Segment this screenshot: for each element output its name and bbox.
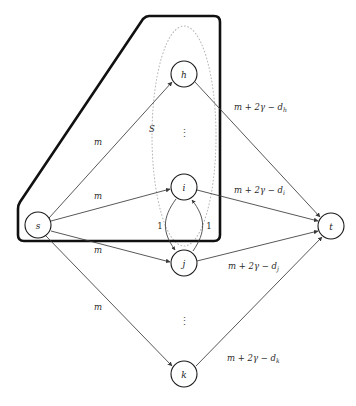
- node-t-label: t: [329, 222, 333, 232]
- network-flow-figure: s h i j k t m m m m m + 2γ − dh: [0, 0, 356, 406]
- edge-i-to-j: [165, 199, 176, 250]
- edge-label-k-to-t-text: m + 2γ − d: [227, 353, 277, 363]
- node-k[interactable]: k: [171, 361, 197, 387]
- edge-s-to-j: [51, 231, 170, 262]
- edge-label-h-to-t-subscript: h: [283, 106, 287, 113]
- node-i-label: i: [183, 183, 186, 193]
- node-h[interactable]: h: [171, 61, 197, 87]
- edge-label-h-to-t-text: m + 2γ − d: [234, 102, 284, 112]
- set-label-s: S: [149, 124, 155, 134]
- edge-s-to-h: [49, 82, 172, 218]
- edge-j-to-t: [197, 231, 318, 261]
- edge-label-s-to-h: m: [94, 137, 102, 147]
- edge-label-j-to-t-text: m + 2γ − d: [228, 261, 278, 271]
- node-j[interactable]: j: [171, 250, 197, 276]
- edge-label-s-to-k: m: [94, 302, 102, 312]
- edge-label-i-to-t-text: m + 2γ − d: [234, 185, 284, 195]
- node-h-label: h: [181, 70, 187, 80]
- ellipsis-upper: ⋮: [179, 127, 190, 140]
- edge-label-h-to-t: m + 2γ − dh: [215, 102, 300, 114]
- ellipsis-lower: ⋮: [179, 315, 190, 328]
- edge-label-i-to-j: 1: [157, 221, 162, 231]
- node-s-label: s: [36, 221, 41, 231]
- edge-j-to-i: [192, 200, 203, 251]
- node-s[interactable]: s: [25, 212, 51, 238]
- edge-label-i-to-t-subscript: i: [283, 189, 285, 196]
- edge-label-i-to-t: m + 2γ − di: [215, 185, 298, 197]
- edge-label-k-to-t-subscript: k: [276, 357, 280, 364]
- edge-label-j-to-t: m + 2γ − dj: [209, 261, 292, 273]
- cut-boundary-polygon: [18, 16, 220, 241]
- edge-label-s-to-j: m: [94, 245, 102, 255]
- edge-label-s-to-i: m: [94, 191, 102, 201]
- node-k-label: k: [181, 370, 186, 380]
- edge-s-to-k: [46, 236, 172, 366]
- edge-label-k-to-t: m + 2γ − dk: [208, 353, 293, 365]
- edge-label-j-to-i: 1: [206, 221, 211, 231]
- node-i[interactable]: i: [171, 174, 197, 200]
- edge-s-to-i: [51, 189, 170, 221]
- node-t[interactable]: t: [318, 213, 344, 239]
